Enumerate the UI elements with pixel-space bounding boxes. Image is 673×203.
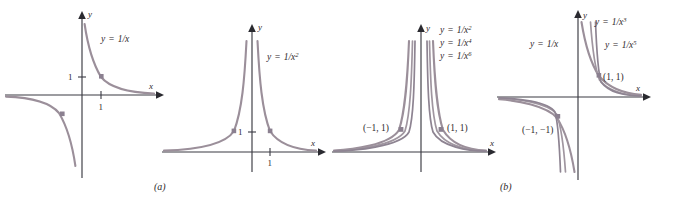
caption-a: (a) <box>154 181 166 192</box>
point-marker-neg1-neg1 <box>556 114 561 119</box>
curve-x1-positive <box>582 22 642 95</box>
curve-label-y-1-over-x6: y=1/x6 <box>439 50 472 61</box>
x-tick-label-1: 1 <box>268 158 273 168</box>
point-marker-1-1 <box>99 74 104 79</box>
x-axis-label: x <box>148 81 153 91</box>
y-axis-label: y <box>425 23 430 33</box>
y-axis-arrow-icon <box>417 24 425 32</box>
caption-b: (b) <box>500 181 512 192</box>
point-marker-neg1-1 <box>399 127 404 132</box>
panel-b-right: y x y=1/x y=1/x3 y=1/x5 (1, 1) (−1, −1) <box>495 0 673 203</box>
x-axis-label: x <box>635 83 640 93</box>
y-axis-arrow-icon <box>574 10 582 18</box>
point-label-1-1: (1, 1) <box>603 72 624 83</box>
x-axis-label: x <box>489 138 494 148</box>
y-axis-label: y <box>582 10 587 20</box>
curve-label-y-1-over-x4: y=1/x4 <box>439 37 472 48</box>
x-axis-arrow-icon <box>643 93 651 101</box>
curve-label-y-1-over-x5: y=1/x5 <box>604 39 637 50</box>
curve-label-y-1-over-x3: y=1/x3 <box>594 16 627 27</box>
figure-reciprocal-power-functions: y x 1 1 y=1/x y x 1 1 <box>0 0 673 203</box>
curve-x5-positive <box>596 22 642 96</box>
point-label-1-1: (1, 1) <box>447 123 468 134</box>
point-marker-1-1 <box>597 73 602 78</box>
panel-a-right: y x 1 1 y=1/x2 <box>160 0 340 203</box>
curve-x4-negative <box>334 41 413 151</box>
curve-branch-negative <box>164 41 247 151</box>
y-axis-label: y <box>87 9 92 19</box>
curve-label-y-1-over-x2: y=1/x2 <box>266 51 299 62</box>
plot-y-1-over-x: y x 1 1 y=1/x <box>0 0 170 203</box>
x-axis-label: x <box>310 138 315 148</box>
y-axis-arrow-icon <box>78 11 86 19</box>
y-tick-label-1: 1 <box>68 72 73 82</box>
plot-odd-powers: y x y=1/x y=1/x3 y=1/x5 (1, 1) (−1, −1) <box>495 0 673 203</box>
point-marker-1-1 <box>439 127 444 132</box>
point-marker-neg1-neg1 <box>60 112 65 117</box>
point-label-neg1-neg1: (−1, −1) <box>522 125 553 136</box>
y-tick-label-1: 1 <box>238 127 243 137</box>
panel-b-left: y x y=1/x2 y=1/x4 y=1/x6 (−1, 1) (1, 1) <box>330 0 500 203</box>
y-axis-label: y <box>257 22 262 32</box>
y-axis-arrow-icon <box>248 24 256 32</box>
curve-label-y-1-over-x2: y=1/x2 <box>439 24 472 35</box>
curve-x1-negative <box>499 99 575 172</box>
panel-a-left: y x 1 1 y=1/x <box>0 0 170 203</box>
point-marker-1-1 <box>268 129 273 134</box>
x-axis-arrow-icon <box>318 148 326 156</box>
curve-x2-negative <box>334 41 409 151</box>
x-tick-label-1: 1 <box>99 102 104 112</box>
point-label-neg1-1: (−1, 1) <box>363 123 389 134</box>
curve-branch-negative <box>6 97 75 166</box>
curve-label-y-1-over-x: y=1/x <box>529 39 559 49</box>
curve-label-y-1-over-x: y=1/x <box>100 34 130 44</box>
plot-even-powers: y x y=1/x2 y=1/x4 y=1/x6 (−1, 1) (1, 1) <box>330 0 500 203</box>
plot-y-1-over-x2: y x 1 1 y=1/x2 <box>160 0 340 203</box>
curve-x3-negative <box>499 98 566 172</box>
point-marker-neg1-1 <box>232 129 237 134</box>
